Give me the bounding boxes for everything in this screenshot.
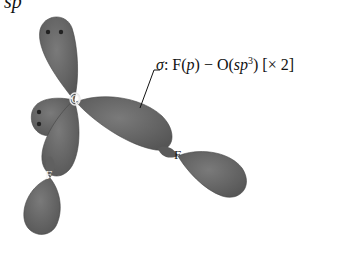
- lone-pair-dot: [37, 122, 41, 126]
- lone-pair-dot: [59, 30, 63, 34]
- f-p-lobe-lower: [24, 178, 60, 234]
- atom-label-f-lower: F: [45, 167, 52, 183]
- orbital-diagram: [0, 0, 361, 254]
- lone-pair-dot: [37, 110, 41, 114]
- orbital-p: p: [187, 56, 195, 73]
- sigma-symbol: σ: [156, 56, 164, 73]
- lone-pair-lobe-upper: [40, 17, 78, 100]
- atom-label-f-right: F: [174, 147, 181, 163]
- bond-label-part: ) − O(: [195, 56, 234, 73]
- atom-label-o: O: [71, 91, 80, 107]
- bond-label-part: : F(: [164, 56, 187, 73]
- orbital-sp: sp: [234, 56, 248, 73]
- f-p-lobe-right: [178, 152, 246, 198]
- lone-pair-dot: [46, 30, 50, 34]
- sp3-lobe-right: [76, 97, 172, 150]
- label-leader-line: [140, 70, 160, 108]
- bond-label-suffix: ) [× 2]: [253, 56, 294, 73]
- bond-label: σ: F(p) − O(sp3) [× 2]: [156, 55, 294, 74]
